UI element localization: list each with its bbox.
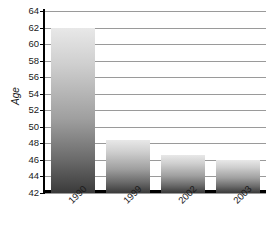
y-axis-tick-label: 56 (28, 72, 39, 82)
y-axis-tick-label: 52 (28, 106, 39, 116)
bar (51, 28, 95, 193)
y-axis-tick-labels: 424446485052545658606264 (14, 11, 39, 193)
y-axis-tick-label: 48 (28, 139, 39, 149)
y-axis-tick-label: 54 (28, 89, 39, 99)
y-axis-tick-label: 58 (28, 56, 39, 66)
bar-chart: Age 424446485052545658606264 19901999200… (0, 0, 275, 245)
bar (106, 140, 150, 193)
y-axis-tick-label: 64 (28, 6, 39, 16)
y-axis-tick-label: 60 (28, 39, 39, 49)
x-axis-tick-labels: 1990199920022003 (45, 196, 266, 244)
y-axis-tick-label: 62 (28, 23, 39, 33)
bar (161, 155, 205, 193)
y-axis-tick-label: 42 (28, 188, 39, 198)
y-axis-tick-label: 44 (28, 172, 39, 182)
y-axis-tick-label: 50 (28, 122, 39, 132)
bar (216, 160, 260, 193)
y-axis-tick-label: 46 (28, 155, 39, 165)
bars-layer (45, 11, 266, 193)
